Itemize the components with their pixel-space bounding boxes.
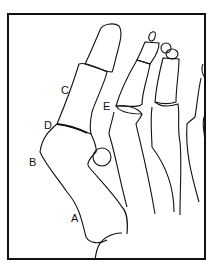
label-a: A xyxy=(71,213,78,224)
label-b: B xyxy=(29,157,36,168)
foot-bones-drawing xyxy=(9,15,206,260)
label-d: D xyxy=(44,120,52,131)
figure-frame: A B C D E xyxy=(7,13,206,260)
label-e: E xyxy=(103,101,110,112)
label-c: C xyxy=(61,85,69,96)
